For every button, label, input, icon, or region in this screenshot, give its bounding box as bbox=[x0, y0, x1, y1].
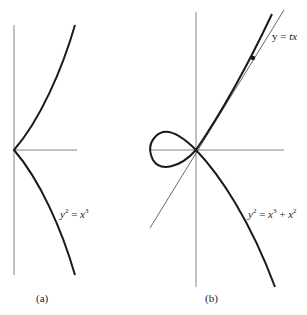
b-intersection-point bbox=[251, 56, 255, 60]
a-caption: (a) bbox=[36, 292, 48, 304]
b-caption: (b) bbox=[205, 292, 218, 304]
a-equation-label: y2 = x3 bbox=[60, 208, 89, 220]
figure-canvas bbox=[0, 0, 307, 315]
b-equation-label: y2 = x3 + x2 bbox=[248, 208, 297, 220]
b-line-label: y = tx bbox=[272, 30, 297, 42]
